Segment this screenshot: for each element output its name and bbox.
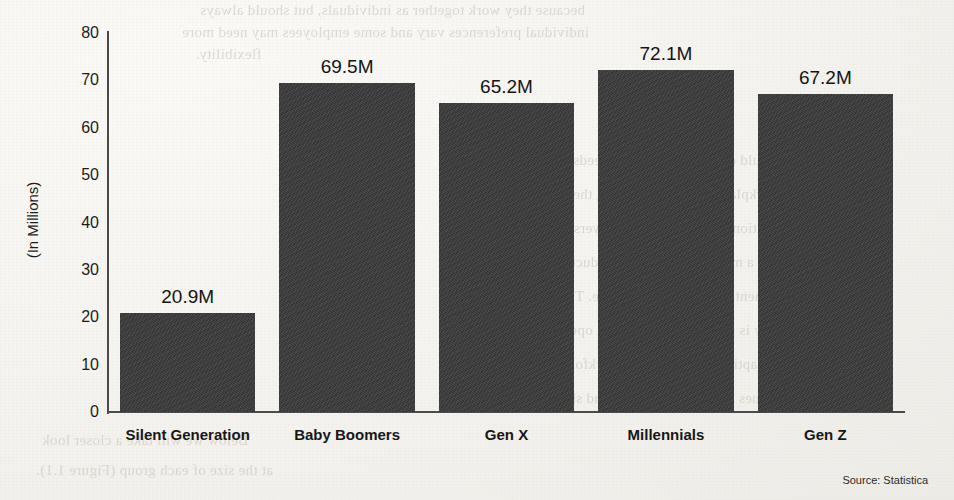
y-axis-tick-label: 80 [81,24,99,42]
bar[interactable]: 20.9M [120,313,255,412]
y-axis-tick-label: 10 [81,356,99,374]
bar-value-label: 67.2M [799,67,852,89]
y-axis-tick-label: 60 [81,119,99,137]
x-axis-category-label: Gen Z [804,426,847,443]
x-axis-category-label: Baby Boomers [294,426,400,443]
bar-value-label: 65.2M [480,76,533,98]
bar[interactable]: 67.2M [758,94,893,412]
bar-value-label: 72.1M [640,43,693,65]
x-axis-category-label: Gen X [485,426,528,443]
x-axis-category-label: Millennials [628,426,705,443]
bar[interactable]: 72.1M [598,70,733,412]
y-axis-title: (In Millions) [24,182,41,259]
bar-value-label: 69.5M [321,56,374,78]
bar-group: 69.5MBaby Boomers [267,33,426,412]
bar-value-label: 20.9M [161,286,214,308]
bar-group: 65.2MGen X [427,33,586,412]
y-axis-tick-label: 40 [81,214,99,232]
bar-group: 67.2MGen Z [746,33,905,412]
bar-group: 72.1MMillennials [586,33,745,412]
source-attribution: Source: Statistica [842,474,928,486]
bar-series: 20.9MSilent Generation69.5MBaby Boomers6… [108,33,905,412]
bar-group: 20.9MSilent Generation [108,33,267,412]
plot-area: 80706050403020100 20.9MSilent Generation… [108,33,905,412]
bar[interactable]: 65.2M [439,103,574,412]
generation-population-bar-chart: (In Millions) 80706050403020100 20.9MSil… [0,0,954,500]
bar[interactable]: 69.5M [279,83,414,412]
y-axis-tick-label: 0 [90,403,99,421]
y-axis-tick-label: 30 [81,261,99,279]
y-axis-tick-label: 50 [81,166,99,184]
y-axis-tick-label: 70 [81,71,99,89]
x-axis-category-label: Silent Generation [126,426,250,443]
y-axis-tick-label: 20 [81,308,99,326]
